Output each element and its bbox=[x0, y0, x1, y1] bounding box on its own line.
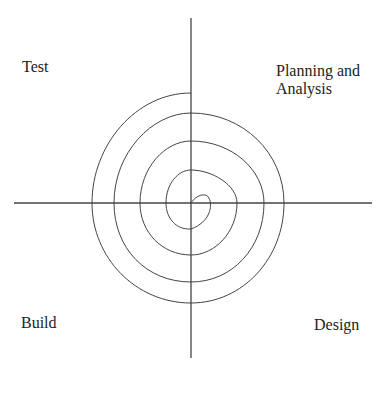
planning-line-1: Planning and bbox=[276, 62, 360, 80]
spiral-diagram bbox=[0, 0, 382, 398]
spiral-curve bbox=[92, 93, 284, 303]
quadrant-label-planning: Planning and Analysis bbox=[276, 62, 360, 98]
quadrant-label-test: Test bbox=[22, 58, 48, 76]
quadrant-label-build: Build bbox=[21, 314, 57, 332]
quadrant-label-design: Design bbox=[314, 316, 359, 334]
planning-line-2: Analysis bbox=[276, 80, 360, 98]
